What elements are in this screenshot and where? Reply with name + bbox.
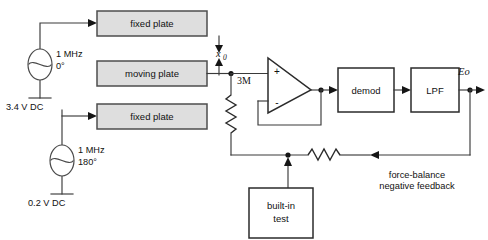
ac-source-icon-top: 1 MHz 0° 3.4 V DC xyxy=(6,49,83,112)
circuit-diagram-canvas: fixed plate moving plate fixed plate x 0 xyxy=(0,0,488,240)
built-in-test-node-dot xyxy=(285,152,290,157)
lpf-label: LPF xyxy=(426,85,444,96)
arrowhead-demod-input xyxy=(329,86,338,94)
feedback-label-line2: negative feedback xyxy=(379,181,455,191)
output-node: Eo xyxy=(457,66,485,94)
block-demod: demod xyxy=(338,68,394,112)
input-resistor-label: 3M xyxy=(237,75,251,86)
built-in-test-label-line2: test xyxy=(273,213,289,224)
input-resistor-3m: 3M xyxy=(226,74,251,156)
operational-amplifier: + - xyxy=(258,58,324,125)
arrowhead-lpf-input xyxy=(402,86,411,94)
arrowhead-output xyxy=(476,86,485,94)
arrowhead-feedback-direction xyxy=(370,151,379,159)
fixed-plate-bottom-label: fixed plate xyxy=(130,111,173,122)
wire-opamp-to-demod xyxy=(321,86,338,94)
top-source-frequency: 1 MHz xyxy=(56,49,83,59)
gap-displacement-indicator: x 0 xyxy=(215,36,227,75)
accelerometer-schematic: fixed plate moving plate fixed plate x 0 xyxy=(0,0,488,240)
moving-plate: moving plate xyxy=(97,61,207,86)
fixed-plate-bottom: fixed plate xyxy=(97,104,207,129)
gap-label-x: x xyxy=(215,48,221,59)
wire-top-source-to-ground xyxy=(29,80,51,98)
wire-bottom-branch xyxy=(62,110,97,145)
wire-bottom-source-to-ground xyxy=(51,176,73,194)
gap-label-subscript: 0 xyxy=(223,53,227,62)
arrowhead-gap-up xyxy=(215,58,223,66)
fixed-plate-top: fixed plate xyxy=(97,11,207,36)
top-source-bias: 3.4 V DC xyxy=(6,102,44,112)
bottom-source-bias: 0.2 V DC xyxy=(28,198,66,208)
ac-source-icon-bottom: 1 MHz 180° 0.2 V DC xyxy=(28,145,105,208)
moving-plate-label: moving plate xyxy=(125,68,179,79)
bottom-source-frequency: 1 MHz xyxy=(78,145,105,155)
opamp-plus-sign: + xyxy=(274,66,280,77)
bottom-source-phase: 180° xyxy=(78,157,97,167)
demod-label: demod xyxy=(351,85,380,96)
fixed-plate-top-label: fixed plate xyxy=(130,18,173,29)
wire-top-source-to-fixed-plate xyxy=(40,19,97,49)
wire-demod-to-lpf xyxy=(394,86,411,94)
block-lpf: LPF xyxy=(411,68,459,112)
built-in-test-label-line1: built-in xyxy=(267,200,295,211)
arrowhead-built-in-test-output xyxy=(284,157,292,166)
arrowhead-bottom-plate-input xyxy=(88,112,97,120)
block-built-in-test: built-in test xyxy=(249,157,313,238)
opamp-minus-sign: - xyxy=(275,97,278,108)
top-source-phase: 0° xyxy=(56,61,65,71)
output-label: Eo xyxy=(457,66,470,77)
arrowhead-top-plate-input xyxy=(88,19,97,27)
feedback-label-line1: force-balance xyxy=(389,170,445,180)
